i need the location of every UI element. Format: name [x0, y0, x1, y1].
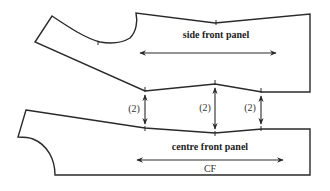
centre-front-panel: centre front panel CF	[18, 110, 310, 175]
pattern-diagram: side front panel centre front panel CF (…	[0, 0, 330, 191]
spacing-label: (2)	[199, 102, 211, 114]
centre-front-panel-label: centre front panel	[172, 141, 249, 152]
side-front-panel-label: side front panel	[183, 29, 250, 40]
pattern-canvas: side front panel centre front panel CF (…	[0, 0, 330, 191]
centre-front-panel-outline	[18, 110, 310, 175]
cf-label: CF	[204, 163, 217, 174]
spacing-label: (2)	[128, 103, 140, 115]
spacing-arrow-3: (2)	[244, 96, 261, 124]
spacing-arrow-1: (2)	[128, 95, 145, 124]
spacing-arrow-2: (2)	[199, 88, 215, 129]
spacing-label: (2)	[244, 102, 256, 114]
side-front-panel: side front panel	[35, 13, 310, 93]
